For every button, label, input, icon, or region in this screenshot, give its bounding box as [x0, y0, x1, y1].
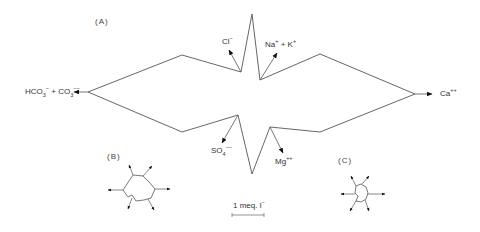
- scale-label: 1 meq. l−: [233, 201, 265, 211]
- label-hco3-co3: HCO3− + CO3−−: [25, 87, 80, 97]
- panel-label-b: (B): [107, 152, 121, 161]
- label-ca: Ca++: [440, 89, 457, 99]
- scale-bar: [232, 213, 264, 217]
- panel-a-polygon: [88, 14, 415, 174]
- panel-label-c: (C): [338, 156, 352, 165]
- arrow-mg-icon: [270, 127, 283, 153]
- label-mg: Mg++: [275, 157, 293, 167]
- water-chemistry-diagram: [0, 0, 480, 232]
- panel-c-diagram: [341, 176, 385, 211]
- label-so4: SO4−−: [211, 146, 232, 156]
- panel-b-diagram: [108, 165, 170, 210]
- panel-label-a: (A): [95, 17, 109, 26]
- label-na-k: Na+ + K+: [265, 40, 296, 50]
- label-cl: Cl−: [222, 37, 233, 47]
